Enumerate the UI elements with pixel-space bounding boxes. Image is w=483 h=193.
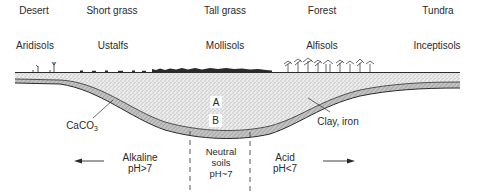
horizon-a-label: A <box>213 97 220 108</box>
neutral-soils: soils <box>206 157 237 168</box>
tall-grass-icon <box>152 68 272 72</box>
alkaline-title: Alkaline <box>122 152 157 163</box>
horizon-b-label: B <box>212 115 219 126</box>
forest-trees-icon <box>284 58 374 72</box>
acid-label: Acid pH<7 <box>273 152 297 174</box>
alkaline-arrow-icon <box>74 159 104 164</box>
clay-iron-label: Clay, iron <box>317 116 359 127</box>
alkaline-ph: pH>7 <box>122 163 157 174</box>
caco3-label: CaCO3 <box>66 120 98 134</box>
desert-plants-icon <box>33 62 56 72</box>
caco3-main: CaCO <box>66 120 94 131</box>
acid-title: Acid <box>273 152 297 163</box>
alkaline-label: Alkaline pH>7 <box>122 152 157 174</box>
acid-arrow-icon <box>323 159 355 164</box>
neutral-label: Neutral soils pH~7 <box>206 146 237 179</box>
neutral-ph: pH~7 <box>206 168 237 179</box>
neutral-title: Neutral <box>206 146 237 157</box>
caco3-subscript: 3 <box>94 125 98 132</box>
caco3-leader <box>93 100 113 118</box>
acid-ph: pH<7 <box>273 163 297 174</box>
soil-profile-diagram <box>0 0 483 193</box>
